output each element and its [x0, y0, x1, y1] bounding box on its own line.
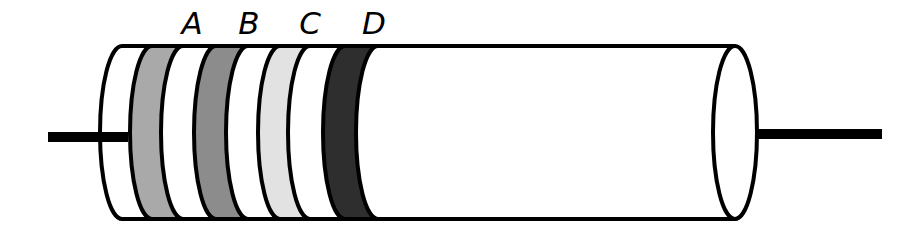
- band-label-a: A: [179, 5, 202, 41]
- band-label-c: C: [299, 5, 321, 41]
- resistor-illustration: A B C D: [0, 0, 919, 239]
- resistor-diagram-canvas: A B C D: [0, 0, 919, 239]
- band-label-d: D: [362, 5, 386, 41]
- left-lead-wire: [48, 132, 128, 142]
- band-label-b: B: [238, 5, 259, 41]
